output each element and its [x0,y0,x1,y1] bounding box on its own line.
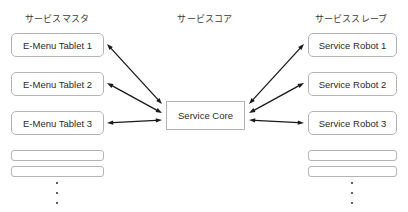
tablet-3-to-core [107,118,162,125]
arrowhead-forward [298,44,304,50]
node-service-robot-2[interactable]: Service Robot 2 [308,72,397,96]
tablet-2-to-core [107,83,162,113]
arrowhead-reverse [107,120,113,124]
connection-line [254,86,299,111]
connection-line [255,120,299,122]
arrowhead-reverse [249,108,256,113]
node-e-menu-tablet-1[interactable]: E-Menu Tablet 1 [11,33,104,57]
ellipsis-dot [56,182,58,184]
column-header-left: サービスマスタ [25,12,89,25]
vertical-ellipsis-right [351,182,353,204]
node-service-robot-3[interactable]: Service Robot 3 [308,111,397,135]
node-service-robot-placeholder-1[interactable] [308,150,397,161]
connection-line [113,120,157,122]
connection-line [112,86,157,111]
node-e-menu-tablet-placeholder-1[interactable] [11,150,104,161]
ellipsis-dot [351,202,353,204]
arrowhead-reverse [107,83,114,88]
arrowhead-reverse [249,118,255,122]
ellipsis-dot [351,182,353,184]
tablet-1-to-core [107,44,162,104]
arrowhead-forward [156,118,162,122]
ellipsis-dot [56,202,58,204]
connection-line [111,48,158,100]
node-e-menu-tablet-2[interactable]: E-Menu Tablet 2 [11,72,104,96]
node-service-core[interactable]: Service Core [166,101,245,130]
arrowhead-reverse [249,98,255,104]
core-to-robot-3 [249,118,304,125]
architecture-diagram: サービスマスタ サービスコア サービススレーブ E-Menu Tablet 1 … [0,0,408,212]
arrowhead-forward [156,98,162,104]
ellipsis-dot [351,192,353,194]
node-service-robot-placeholder-2[interactable] [308,166,397,177]
core-to-robot-2 [249,83,304,113]
node-e-menu-tablet-3[interactable]: E-Menu Tablet 3 [11,111,104,135]
node-service-robot-1[interactable]: Service Robot 1 [308,33,397,57]
arrowhead-forward [298,120,304,124]
ellipsis-dot [56,192,58,194]
column-header-right: サービススレーブ [315,12,388,25]
vertical-ellipsis-left [56,182,58,204]
arrowhead-forward [156,108,163,113]
core-to-robot-1 [249,44,304,104]
connection-line [253,48,300,100]
column-header-center: サービスコア [177,12,232,25]
node-e-menu-tablet-placeholder-2[interactable] [11,166,104,177]
arrowhead-reverse [107,44,113,50]
arrowhead-forward [298,83,305,88]
